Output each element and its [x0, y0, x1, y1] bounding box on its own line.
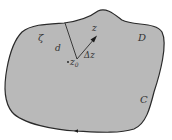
contour-label: C [140, 94, 148, 105]
complex-region-diagram: ζ d z D Δz z0 C [0, 0, 172, 140]
center-point-subscript: 0 [75, 61, 79, 68]
distance-label: d [55, 43, 61, 53]
boundary-point-label: ζ [38, 32, 44, 43]
point-z0-dot [67, 61, 69, 63]
region-d-contour-c [5, 10, 164, 132]
increment-label: Δz [83, 50, 95, 60]
region-label: D [137, 32, 146, 43]
point-z-label: z [91, 23, 97, 33]
